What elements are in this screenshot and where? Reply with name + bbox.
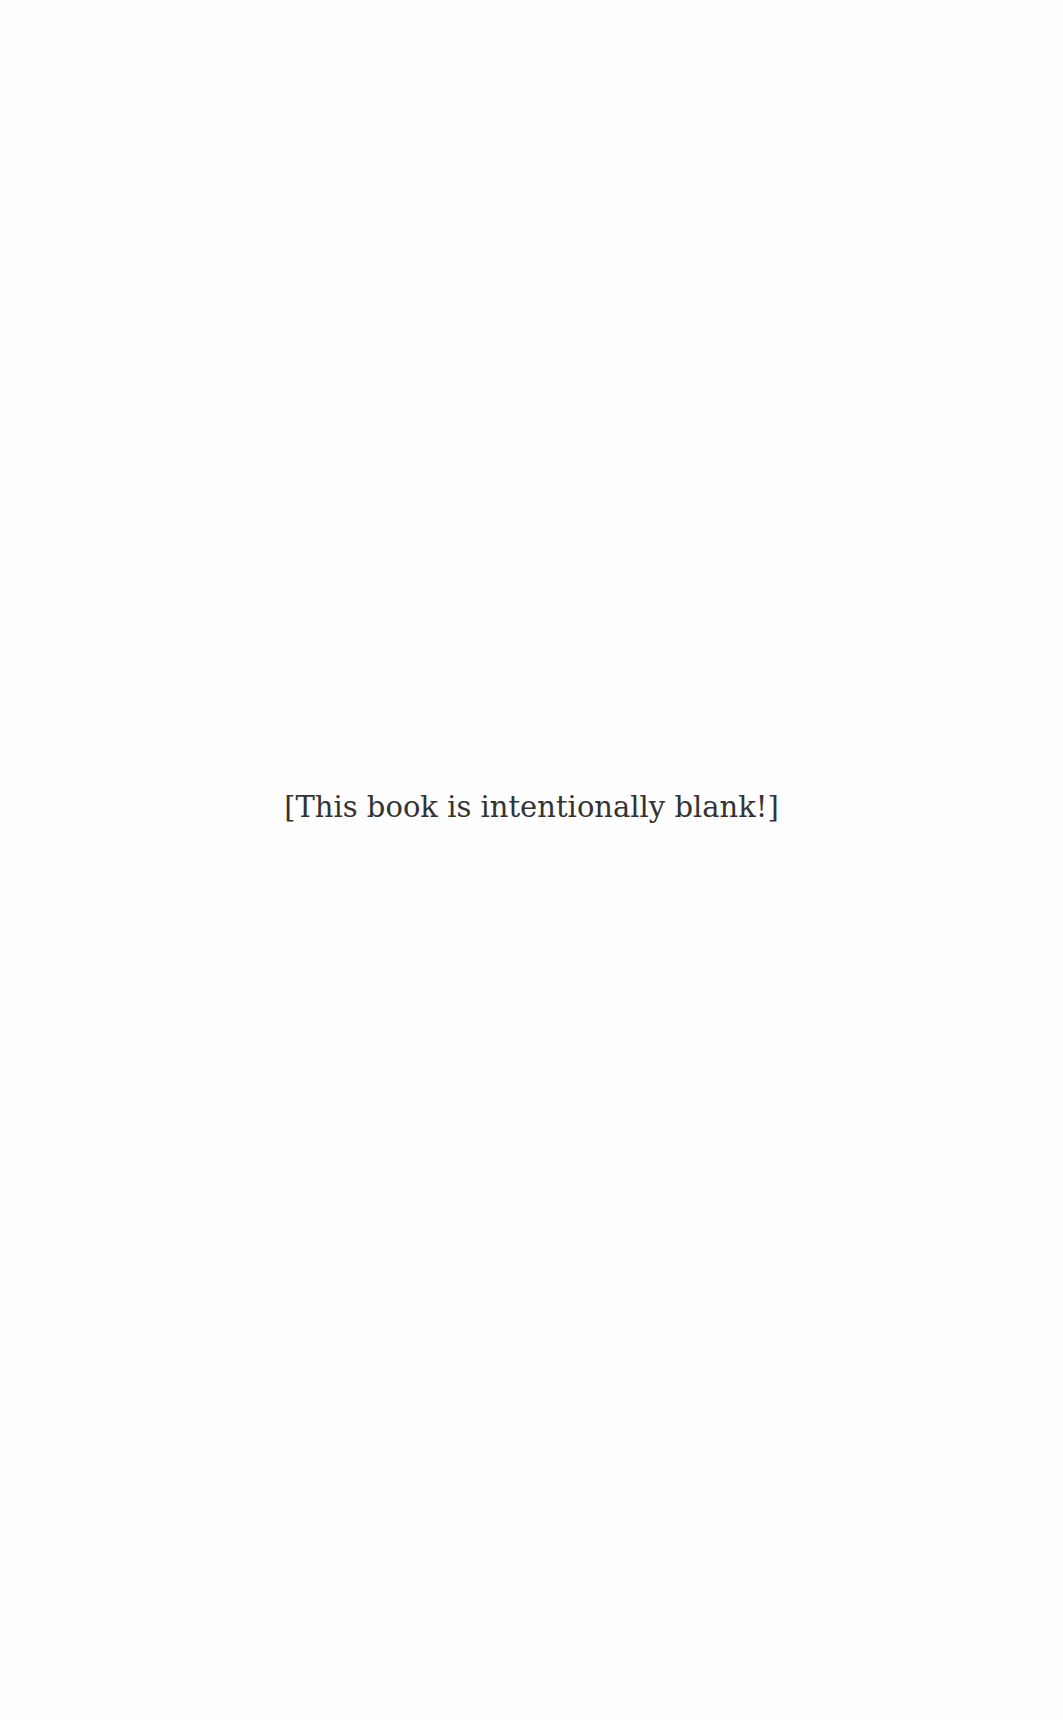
blank-page-notice: [This book is intentionally blank!] bbox=[0, 787, 1063, 827]
blank-book-page: [This book is intentionally blank!] bbox=[0, 0, 1063, 1720]
